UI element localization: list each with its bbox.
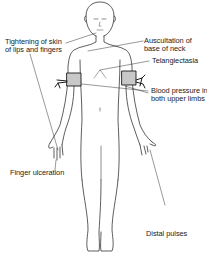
label-tightening-skin: Tightening of skin of lips and fingers	[5, 38, 62, 55]
leader-lines	[30, 33, 165, 205]
legs-outline	[82, 180, 118, 251]
head-outline	[85, 2, 116, 36]
label-blood-pressure: Blood pressure in both upper limbs	[151, 87, 207, 104]
label-telangiectasia: Telangiectasia	[152, 57, 198, 65]
label-auscultation: Auscultation of base of neck	[144, 37, 192, 54]
bp-cuff-right	[122, 71, 145, 88]
label-finger-ulceration: Finger ulceration	[10, 169, 64, 177]
bp-cuff-left	[55, 73, 81, 88]
label-distal-pulses: Distal pulses	[146, 230, 187, 238]
torso-outline	[68, 36, 132, 180]
left-arm-outline	[49, 78, 74, 160]
